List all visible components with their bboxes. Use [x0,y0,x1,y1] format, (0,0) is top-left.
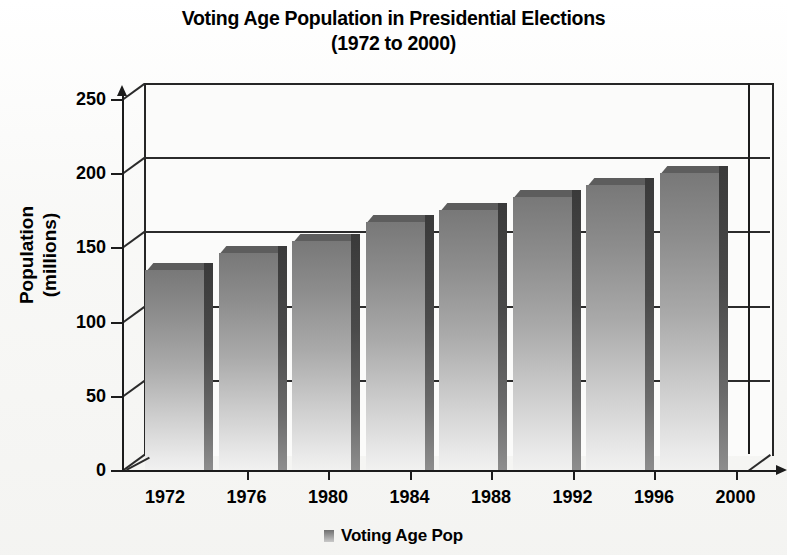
x-tick-2000 [736,471,738,480]
y-tick-200 [111,173,124,175]
y-tick-50 [111,396,124,398]
x-tick-label-1996: 1996 [614,488,694,506]
x-tick-label-1972: 1972 [125,488,205,506]
bar-side-face-1996 [645,178,654,470]
y-tick-label-150: 150 [42,238,106,256]
depth-connector-50 [122,380,145,398]
y-tick-100 [111,322,124,324]
bar-2000[interactable] [660,173,719,470]
y-axis-arrowhead [117,85,127,96]
x-tick-label-1984: 1984 [370,488,450,506]
x-tick-label-1980: 1980 [288,488,368,506]
depth-connector-200 [122,157,145,175]
bar-side-face-1972 [204,263,213,470]
grid-line-200 [144,157,770,159]
depth-connector-100 [122,306,145,324]
depth-connector-right-floor [748,454,771,472]
x-tick-label-2000: 2000 [696,488,776,506]
bar-side-face-1988 [498,203,507,470]
x-axis-arrowhead [776,465,787,475]
bar-1992[interactable] [513,197,572,470]
bar-1988[interactable] [439,210,498,470]
y-tick-250 [111,99,124,101]
y-tick-label-200: 200 [42,164,106,182]
depth-connector-150 [122,231,145,249]
x-tick-1988 [491,471,493,480]
bar-1984[interactable] [366,222,425,470]
legend-entry-label: Voting Age Pop [341,526,463,546]
x-tick-label-1988: 1988 [451,488,531,506]
bar-side-face-2000 [719,166,728,470]
y-tick-150 [111,247,124,249]
y-tick-label-100: 100 [42,313,106,331]
bar-1980[interactable] [292,241,351,470]
bar-1996[interactable] [586,185,645,470]
x-tick-1976 [247,471,249,480]
x-tick-1992 [573,471,575,480]
x-axis-line [122,470,778,472]
x-tick-label-1976: 1976 [207,488,287,506]
y-tick-label-250: 250 [42,90,106,108]
bar-1972[interactable] [145,270,204,470]
y-tick-label-50: 50 [42,387,106,405]
x-tick-label-1992: 1992 [533,488,613,506]
y-tick-0 [111,470,124,472]
chart-plot-area: 0501001502002501972197619801984198819921… [0,0,787,555]
bar-side-face-1976 [278,246,287,470]
x-tick-1980 [328,471,330,480]
x-tick-1984 [410,471,412,480]
bar-side-face-1984 [425,215,434,470]
bar-1976[interactable] [219,253,278,470]
legend-swatch-icon [324,530,334,542]
bar-side-face-1980 [351,234,360,470]
y-axis-line [122,95,124,472]
plot-right-front-edge [748,83,750,454]
bar-side-face-1992 [572,190,581,470]
y-tick-label-0: 0 [42,461,106,479]
x-tick-1996 [654,471,656,480]
chart-legend: Voting Age Pop [0,526,787,546]
